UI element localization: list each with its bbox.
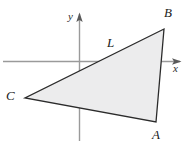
line-label-l: L <box>107 36 114 49</box>
vertex-label-a: A <box>152 128 160 141</box>
vertex-label-c: C <box>6 89 15 102</box>
geometry-figure: B A C L y x <box>0 0 189 146</box>
triangle-ABC <box>25 29 164 122</box>
vertex-label-b: B <box>164 6 172 19</box>
x-axis-label: x <box>173 63 178 74</box>
y-axis-label: y <box>68 11 73 22</box>
figure-canvas <box>0 0 189 146</box>
